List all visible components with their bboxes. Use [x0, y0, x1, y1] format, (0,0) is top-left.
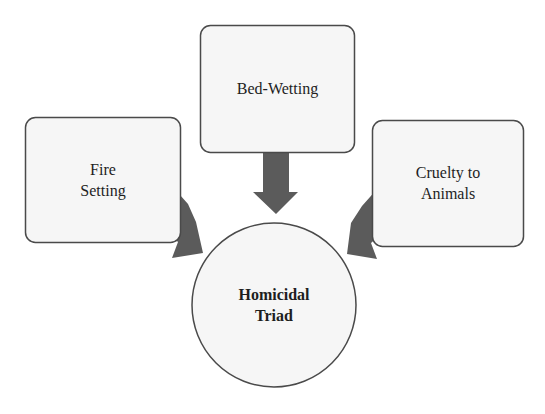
label-center-line2: Triad [255, 305, 293, 326]
label-cruelty-line2: Animals [421, 183, 475, 204]
label-bed-wetting-line1: Bed-Wetting [237, 78, 318, 99]
label-center-line1: Homicidal [238, 284, 309, 305]
label-homicidal-triad: Homicidal Triad [192, 223, 356, 387]
arrow-bedwetting-to-center [253, 150, 298, 214]
label-fire-setting-line2: Setting [80, 180, 125, 201]
label-bed-wetting: Bed-Wetting [200, 25, 355, 152]
label-fire-setting-line1: Fire [90, 159, 116, 180]
label-cruelty-to-animals: Cruelty to Animals [372, 120, 524, 246]
label-cruelty-line1: Cruelty to [416, 162, 480, 183]
arrow-down-shape [253, 150, 298, 214]
label-fire-setting: Fire Setting [25, 117, 181, 242]
